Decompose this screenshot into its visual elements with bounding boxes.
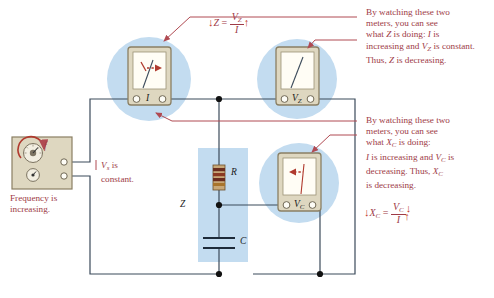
callout-xc-text: By watching these two meters, you can se…	[366, 115, 494, 191]
generator-caption-line1: Frequency is	[10, 193, 57, 203]
equation-z-numerator-sub: Z	[238, 16, 242, 24]
generator-caption: Frequency is increasing.	[10, 193, 96, 215]
signal-generator-body	[12, 137, 72, 189]
equation-z-fraction: VZ I	[230, 12, 244, 36]
equation-z: ↓Z = VZ I ↑	[208, 12, 249, 36]
source-voltage-note-rest: is	[109, 160, 117, 170]
impedance-label: Z	[180, 199, 185, 209]
equation-xc-denominator-arrow: ↑	[404, 210, 410, 222]
equation-xc: ↓XC = VC I ↓↑	[364, 202, 417, 226]
callout-z-text: By watching these two meters, you can se…	[366, 7, 494, 66]
equation-xc-denominator: I	[397, 214, 400, 225]
voltmeter-c-subscript: C	[300, 203, 305, 211]
voltmeter-c-label: VC	[294, 199, 304, 211]
equation-z-lhs: Z	[214, 17, 220, 28]
source-voltage-note: Vs is constant.	[101, 160, 163, 185]
ammeter-body	[128, 47, 171, 105]
resistor-label: R	[231, 167, 237, 177]
equation-xc-lhs-sub: C	[376, 212, 381, 220]
circuit-diagram-figure: f Frequency is increasing. Vs is constan…	[0, 0, 494, 298]
generator-caption-line2: increasing.	[10, 204, 50, 214]
source-voltage-note-line2: constant.	[101, 174, 134, 184]
equation-z-denominator-arrow: ↑	[244, 16, 250, 28]
callout-z-line-1: By watching these two	[366, 7, 450, 17]
ammeter-label: I	[146, 93, 149, 103]
equation-z-denominator: I	[235, 24, 238, 35]
generator-frequency-knob-label: f	[44, 141, 47, 151]
voltmeter-z-label: VZ	[292, 93, 302, 105]
callout-xc-line-2: meters, you can see	[366, 126, 438, 136]
callout-xc-line-1: By watching these two	[366, 115, 450, 125]
callout-z-line-2: meters, you can see	[366, 18, 438, 28]
capacitor-label: C	[240, 236, 246, 246]
equation-xc-numerator-sub: C	[399, 206, 404, 214]
voltmeter-z-subscript: Z	[298, 97, 302, 105]
resistor-symbol	[213, 165, 225, 190]
